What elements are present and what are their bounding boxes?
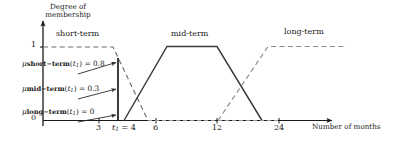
label-long-term: long-term [284, 28, 324, 36]
mu-subname-long: long−term [27, 108, 67, 116]
label-mid-term: mid-term [171, 30, 208, 38]
equals-value-long: = 0 [81, 107, 94, 116]
paren-close-mid: ) [74, 84, 77, 93]
mu-subname-mid: mid−term [27, 85, 65, 93]
y-tick-label-one: 1 [31, 41, 36, 49]
equation-long-term: μlong−term(t1) = 0 [22, 108, 94, 117]
x-tick-label-6: 6 [153, 124, 158, 132]
equals-value-mid: = 0.3 [79, 84, 99, 93]
t1-subscript: 1 [115, 126, 119, 132]
equation-mid-term: μmid−term(t1) = 0.3 [22, 85, 99, 94]
x-axis-title: Number of months [312, 123, 396, 131]
paren-close-short: ) [79, 59, 82, 68]
t1-equals: = 4 [121, 123, 135, 132]
equals-value-short: = 0.8 [84, 59, 104, 68]
x-tick-label-12: 12 [212, 124, 222, 132]
mu-subname-short: short−term [27, 60, 70, 68]
curve-long-term [218, 47, 347, 121]
curve-mid-term [124, 47, 262, 121]
y-axis-title: Degree of membership [26, 3, 110, 18]
equation-short-term: μshort−term(t1) = 0.8 [22, 60, 105, 69]
label-short-term: short-term [56, 30, 99, 38]
x-tick-label-3: 3 [96, 124, 101, 132]
fuzzy-membership-chart: Degree of membership 1 0 short-term mid-… [0, 0, 396, 152]
y-axis-title-line2: membership [26, 11, 110, 19]
x-tick-label-24: 24 [274, 124, 284, 132]
x-tick-label-t1: t1 = 4 [112, 124, 136, 132]
paren-close-long: ) [76, 107, 79, 116]
